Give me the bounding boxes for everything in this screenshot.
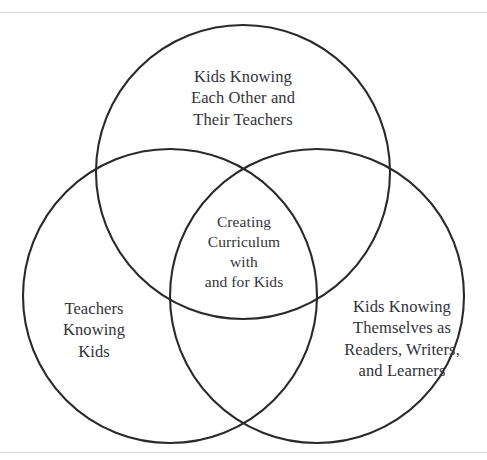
bottom-divider-rule	[0, 452, 487, 453]
venn-label-right-circle: Kids Knowing Themselves as Readers, Writ…	[325, 296, 479, 382]
venn-diagram-figure: Kids Knowing Each Other and Their Teache…	[0, 0, 487, 460]
venn-label-center-intersection: Creating Curriculum with and for Kids	[178, 212, 310, 293]
venn-label-top-circle: Kids Knowing Each Other and Their Teache…	[143, 66, 343, 130]
venn-label-left-circle: Teachers Knowing Kids	[26, 298, 162, 362]
